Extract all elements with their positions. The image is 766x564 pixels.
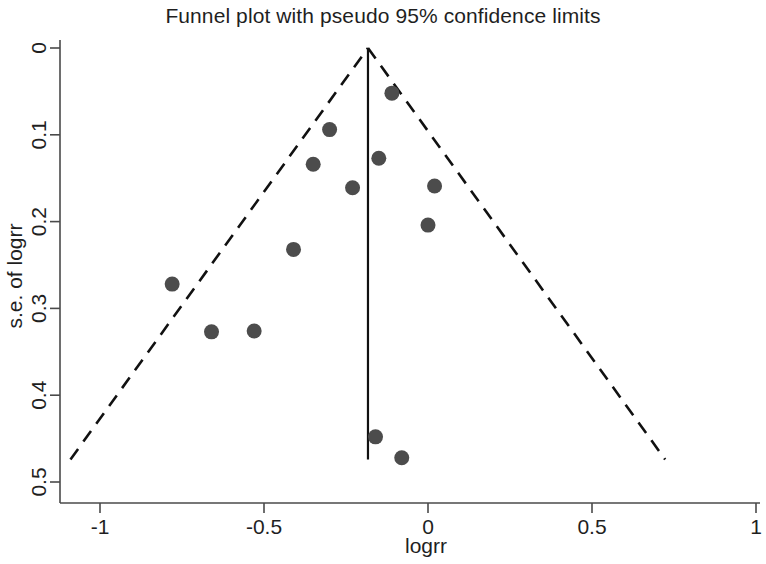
x-tick-label: 0.5 — [577, 515, 606, 538]
x-tick-label: -0.5 — [246, 515, 282, 538]
x-tick-label: 1 — [750, 515, 762, 538]
data-point — [322, 122, 337, 137]
data-point — [204, 324, 219, 339]
funnel-plot-canvas: 00.10.20.30.40.5 -1-0.500.51 logrr s.e. … — [0, 0, 766, 564]
x-tick-label: -1 — [91, 515, 110, 538]
data-point — [345, 180, 360, 195]
y-tick-label: 0.5 — [27, 467, 50, 496]
y-tick-label: 0.3 — [27, 294, 50, 323]
funnel-plot-figure: Funnel plot with pseudo 95% confidence l… — [0, 0, 766, 564]
data-point — [306, 157, 321, 172]
data-point — [286, 242, 301, 257]
data-point — [394, 450, 409, 465]
data-point — [247, 323, 262, 338]
data-point — [427, 179, 442, 194]
ci-limit-right-line — [368, 48, 665, 459]
data-points-group — [165, 86, 442, 466]
y-tick-label: 0.4 — [27, 380, 50, 410]
data-point — [368, 429, 383, 444]
y-tick-label: 0.2 — [27, 207, 50, 236]
x-axis-label: logrr — [405, 534, 447, 557]
data-point — [371, 151, 386, 166]
y-tick-label: 0.1 — [27, 120, 50, 149]
y-tick-label: 0 — [27, 42, 50, 54]
y-axis-ticks: 00.10.20.30.40.5 — [27, 42, 60, 496]
data-point — [165, 277, 180, 292]
ci-limit-left-line — [70, 48, 367, 459]
data-point — [384, 86, 399, 101]
y-axis-label: s.e. of logrr — [3, 223, 26, 328]
x-axis-ticks: -1-0.500.51 — [91, 503, 762, 538]
data-point — [421, 218, 436, 233]
